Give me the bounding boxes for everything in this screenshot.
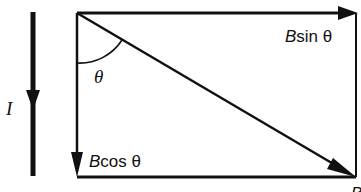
vertical-component-label: Bcos θ (89, 152, 141, 171)
vector-diagram: I θ Bsin θ Bcos θ B (0, 0, 361, 192)
resultant-label: B (351, 184, 361, 192)
angle-label: θ (94, 66, 103, 87)
horizontal-func: sin θ (296, 27, 332, 46)
horizontal-component-label: Bsin θ (285, 27, 332, 46)
vertical-arrowhead-icon (71, 152, 83, 177)
current-label: I (5, 98, 14, 119)
current-direction-arrow-icon (26, 90, 40, 110)
current-wire (26, 12, 40, 176)
angle-arc (77, 40, 122, 63)
vertical-func: cos θ (100, 152, 141, 171)
resultant-arrowhead-icon (327, 158, 356, 177)
